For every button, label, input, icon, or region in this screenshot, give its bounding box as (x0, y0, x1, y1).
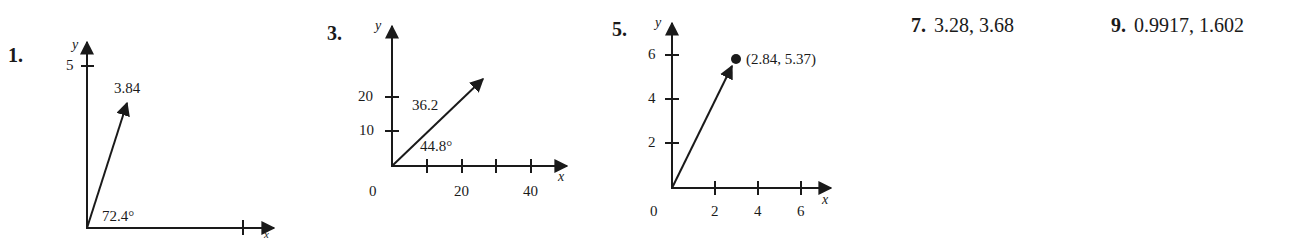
y-axis-label: y (72, 37, 78, 53)
y-axis-label: y (655, 15, 661, 31)
x-axis-label: x (558, 169, 564, 185)
x-tick-label: 20 (454, 183, 469, 200)
x-axis-label: x (822, 192, 828, 208)
answer-7: 7. 3.28, 3.68 (911, 14, 1014, 37)
x-tick-label: 40 (523, 183, 538, 200)
answer-text: 0.9917, 1.602 (1134, 14, 1244, 36)
endpoint-dot (731, 54, 741, 64)
problem-number: 7. (911, 14, 926, 36)
vector-magnitude-label: 36.2 (412, 97, 438, 114)
figure-5 (665, 23, 831, 195)
vector-arrow (672, 66, 732, 188)
problem-number: 9. (1111, 14, 1126, 36)
y-tick-label: 10 (359, 122, 374, 139)
x-tick-label: 4 (754, 203, 762, 220)
y-tick-label: 6 (648, 46, 656, 63)
problem-number: 3. (327, 22, 342, 45)
point-label: (2.84, 5.37) (746, 51, 816, 68)
y-axis-label: y (375, 18, 381, 34)
vector-magnitude-label: 3.84 (114, 80, 140, 97)
answer-9: 9. 0.9917, 1.602 (1111, 14, 1244, 37)
y-tick-label: 4 (648, 90, 656, 107)
y-tick-label: 2 (648, 134, 656, 151)
problem-number: 1. (8, 44, 23, 67)
y-tick-label: 5 (66, 57, 74, 74)
problem-number: 5. (612, 18, 627, 41)
x-tick-label: 0 (650, 203, 658, 220)
x-tick-label: 0 (369, 183, 377, 200)
x-axis-label: x (264, 228, 269, 238)
angle-label: 72.4° (102, 208, 134, 225)
figure-1 (81, 42, 274, 235)
y-tick-label: 20 (358, 88, 373, 105)
x-tick-label: 6 (797, 203, 805, 220)
figures-canvas (0, 0, 1290, 238)
angle-label: 44.8° (420, 138, 452, 155)
x-tick-label: 2 (711, 203, 719, 220)
answer-text: 3.28, 3.68 (934, 14, 1014, 36)
